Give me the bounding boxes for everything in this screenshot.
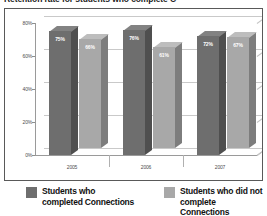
x-axis-tick-label: 2005: [35, 164, 109, 170]
bar-side-face: [249, 32, 256, 148]
bar-front-face: [79, 39, 101, 148]
bar-side-face: [71, 26, 78, 155]
plot-frame: 0%20%40%60%80% 66%75%61%76%67%72% 200520…: [4, 8, 263, 181]
x-axis-separator: [109, 155, 110, 167]
bar-side-face: [101, 34, 108, 148]
gridline-depth-connector: [257, 50, 263, 57]
bar: 67%: [227, 37, 249, 148]
legend-label: Students who completed Connections: [42, 186, 134, 207]
x-axis-tick-label: 2007: [183, 164, 257, 170]
legend-item[interactable]: Students who completed Connections: [26, 186, 134, 207]
chart-legend: Students who completed ConnectionsStuden…: [4, 186, 263, 214]
y-axis-tick-label: 80%: [23, 20, 32, 26]
chart-page: Retention rate for students who complete…: [0, 0, 267, 216]
bar-side-face: [175, 42, 182, 148]
bar-value-label: 75%: [49, 36, 71, 42]
y-axis-tick-label: 40%: [23, 86, 32, 92]
x-axis-tick-label: 2006: [109, 164, 183, 170]
legend-label: Students who did not complete Connection…: [180, 186, 263, 216]
gridline-depth-connector: [257, 149, 263, 156]
bar-front-face: [153, 47, 175, 148]
bar-value-label: 66%: [79, 44, 101, 50]
bar-value-label: 72%: [197, 41, 219, 47]
bar-side-face: [219, 31, 226, 155]
bar: 72%: [197, 36, 219, 155]
chart-title: Retention rate for students who complete…: [4, 0, 263, 6]
x-axis-line: [35, 155, 257, 156]
bar-front-face: [49, 31, 71, 155]
bar: 61%: [153, 47, 175, 148]
legend-swatch: [26, 187, 37, 198]
x-axis-separator: [183, 155, 184, 167]
bar-side-face: [145, 25, 152, 155]
gridline-depth-connector: [257, 116, 263, 123]
bar-front-face: [123, 30, 145, 155]
y-axis-tick-label: 60%: [23, 53, 32, 59]
gridline-depth-connector: [257, 83, 263, 90]
y-axis-tick-mark: [32, 23, 35, 24]
bar-value-label: 76%: [123, 35, 145, 41]
y-axis-tick-mark: [32, 122, 35, 123]
legend-item[interactable]: Students who did not complete Connection…: [164, 186, 263, 216]
gridline-depth-connector: [257, 17, 263, 24]
gridline-back-wall: [44, 16, 263, 17]
plot-area: 0%20%40%60%80% 66%75%61%76%67%72% 200520…: [35, 23, 257, 155]
y-axis-tick-mark: [32, 89, 35, 90]
legend-swatch: [164, 187, 175, 198]
bar: 75%: [49, 31, 71, 155]
y-axis-tick-mark: [32, 56, 35, 57]
y-axis-line: [35, 23, 36, 155]
bar-value-label: 61%: [153, 52, 175, 58]
y-axis-tick-label: 0%: [25, 152, 32, 158]
bar: 76%: [123, 30, 145, 155]
bar-front-face: [227, 37, 249, 148]
bar-value-label: 67%: [227, 42, 249, 48]
y-axis-tick-label: 20%: [23, 119, 32, 125]
bar-front-face: [197, 36, 219, 155]
y-axis-tick-mark: [32, 155, 35, 156]
bar: 66%: [79, 39, 101, 148]
